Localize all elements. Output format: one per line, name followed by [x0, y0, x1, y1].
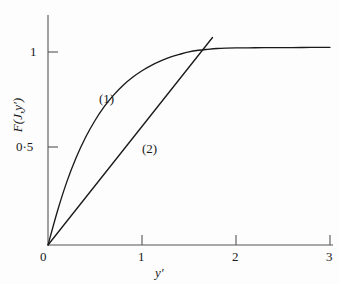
x-axis-title-wrap: y′ — [155, 263, 164, 281]
figure-root: 1 0·5 0 1 2 3 (1) (2) F(J,y′) y′ — [0, 0, 339, 284]
x-axis-title: y′ — [155, 265, 164, 280]
curve-2-path — [48, 38, 213, 245]
curve-2-label: (2) — [142, 142, 157, 155]
curve-1-path — [48, 47, 330, 245]
x-tick-label-0: 0 — [40, 250, 47, 263]
y-tick-label-1: 1 — [30, 45, 37, 58]
curve-1-label: (1) — [99, 92, 114, 105]
y-axis-title-wrap: F(J,y′) — [8, 86, 26, 144]
x-tick-label-2: 2 — [232, 250, 239, 263]
y-axis-title: F(J,y′) — [10, 98, 25, 132]
plot-canvas — [0, 0, 339, 284]
x-tick-label-1: 1 — [138, 250, 145, 263]
x-tick-label-3: 3 — [326, 250, 333, 263]
